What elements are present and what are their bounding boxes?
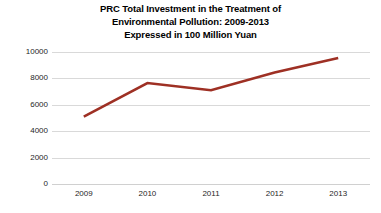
plot-area [52, 52, 370, 184]
y-tick-label-0: 0 [4, 180, 48, 188]
x-tick-label-2010: 2010 [122, 190, 172, 198]
x-tick-label-2011: 2011 [186, 190, 236, 198]
gridline-0 [52, 184, 370, 185]
chart-title: PRC Total Investment in the Treatment of… [0, 2, 381, 42]
series-line-total-investment [52, 52, 370, 184]
y-tick-label-10000: 10000 [4, 48, 48, 56]
chart-title-line-1: PRC Total Investment in the Treatment of [0, 2, 381, 15]
y-tick-label-8000: 8000 [4, 74, 48, 82]
x-tick-label-2013: 2013 [313, 190, 363, 198]
chart-title-line-2: Environmental Pollution: 2009-2013 [0, 15, 381, 28]
chart-title-line-3: Expressed in 100 Million Yuan [0, 28, 381, 41]
x-tick-label-2012: 2012 [250, 190, 300, 198]
x-tick-label-2009: 2009 [59, 190, 109, 198]
y-tick-label-6000: 6000 [4, 101, 48, 109]
line-chart: PRC Total Investment in the Treatment of… [0, 0, 381, 213]
y-tick-label-4000: 4000 [4, 127, 48, 135]
series-polyline [84, 58, 338, 117]
y-tick-label-2000: 2000 [4, 154, 48, 162]
